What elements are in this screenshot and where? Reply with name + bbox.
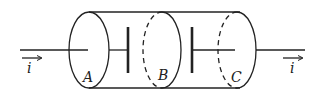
current-label-left: i <box>27 60 31 76</box>
capacitor-cylinder-diagram: i A B C i <box>0 0 319 99</box>
section-label-a: A <box>81 69 93 85</box>
current-arrow-left-icon <box>22 56 42 61</box>
current-label-right: i <box>290 60 294 76</box>
section-label-b: B <box>157 67 168 83</box>
section-label-c: C <box>231 69 242 85</box>
